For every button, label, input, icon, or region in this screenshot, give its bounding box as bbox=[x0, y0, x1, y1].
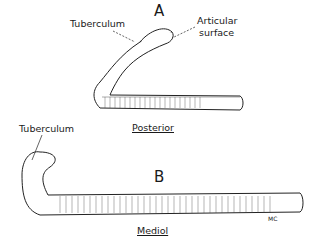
tuberculum-label-a: Tuberculum bbox=[70, 19, 125, 29]
tuberculum-label-b: Tuberculum bbox=[19, 124, 74, 134]
bone-a bbox=[94, 29, 243, 110]
panel-b-letter: B bbox=[154, 170, 164, 185]
panel-a-letter: A bbox=[154, 4, 164, 19]
panel-a-view-label: Posterior bbox=[132, 123, 174, 133]
signature: MC bbox=[268, 216, 277, 222]
panel-b-view-label: Mediol bbox=[137, 226, 168, 236]
articular-label-2: surface bbox=[199, 28, 234, 38]
articular-label-1: Articular bbox=[197, 16, 237, 26]
